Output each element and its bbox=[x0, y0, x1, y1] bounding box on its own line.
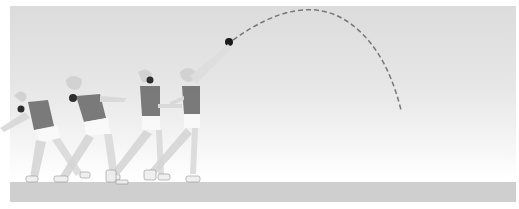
illustration bbox=[0, 0, 519, 209]
athlete-pose-2 bbox=[54, 76, 126, 182]
athlete-pose-3 bbox=[106, 69, 182, 184]
shot-ball-released bbox=[225, 38, 233, 46]
shot-trajectory bbox=[233, 10, 401, 110]
athlete-pose-1 bbox=[0, 91, 90, 182]
